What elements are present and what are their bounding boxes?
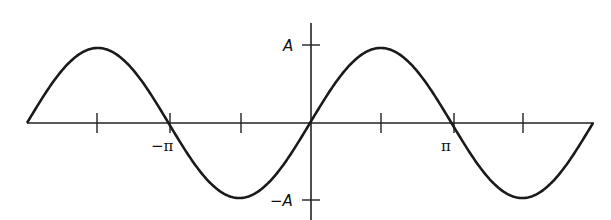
y-label-A: A <box>282 37 293 55</box>
x-label-neg-pi: −π <box>151 137 174 155</box>
y-label-negA: −A <box>270 192 293 210</box>
sine-chart: A −A −π π <box>0 0 611 220</box>
x-label-pi: π <box>441 137 451 155</box>
